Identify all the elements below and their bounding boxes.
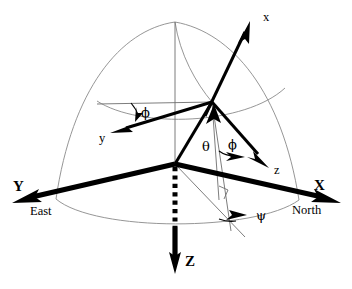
- east-label: East: [30, 205, 52, 218]
- north-label: North: [292, 204, 321, 217]
- phi-upper-label: ϕ: [141, 106, 150, 119]
- coordinate-frame-diagram: x y z X Y Z North East θ ϕ ϕ ψ: [0, 0, 352, 289]
- center-meridian-arc: [175, 22, 212, 102]
- phi-lower-label: ϕ: [228, 138, 237, 151]
- psi-label: ψ: [256, 209, 266, 222]
- theta-label: θ: [202, 140, 210, 153]
- diagram-canvas: [0, 0, 352, 289]
- frame-y-label: Y: [13, 179, 24, 194]
- phi-lower-arc-arrowhead: [226, 152, 245, 161]
- frame-x-label: X: [314, 178, 325, 193]
- body-y-label: y: [99, 132, 105, 145]
- ned-frame-axes: [12, 164, 341, 274]
- sphere-left-meridian-arc: [56, 22, 175, 199]
- body-x-label: x: [263, 11, 269, 24]
- body-x-arrowhead: [238, 21, 250, 44]
- frame-z-label: Z: [185, 254, 195, 269]
- right-angle-tick: [219, 186, 228, 199]
- phi-upper-reference-line: [97, 102, 212, 104]
- y-axis-line: [32, 164, 175, 197]
- x-axis-line: [175, 164, 322, 197]
- body-z-label: z: [274, 164, 280, 177]
- body-frame-rays: [110, 21, 269, 168]
